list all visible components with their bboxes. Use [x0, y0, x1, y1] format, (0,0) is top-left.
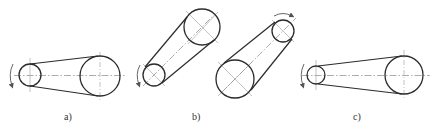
panel-a: a) [10, 52, 126, 123]
belt-left [224, 22, 275, 63]
rotation-arrow-icon [10, 64, 13, 86]
drive-b2 [216, 14, 296, 99]
drive-b1 [137, 9, 220, 86]
belt-bottom [318, 84, 402, 94]
panel-label-a: a) [64, 111, 72, 123]
belt-top [318, 56, 402, 66]
rotation-arrow-icon [301, 64, 304, 86]
panel-label-c: c) [353, 111, 361, 123]
panel-c: c) [301, 50, 430, 123]
cross-axis-large-2 [188, 12, 218, 44]
center-line [143, 15, 214, 86]
belt-right [251, 39, 292, 90]
rotation-arrow-icon [137, 65, 140, 85]
rotation-arrow-icon [274, 14, 292, 17]
belt-right [162, 40, 214, 83]
belt-bottom [30, 86, 98, 96]
panel-label-b: b) [192, 111, 200, 123]
belt-left [145, 17, 187, 67]
belt-drive-diagram: a) b) [0, 0, 433, 130]
panel-b: b) [137, 9, 296, 123]
